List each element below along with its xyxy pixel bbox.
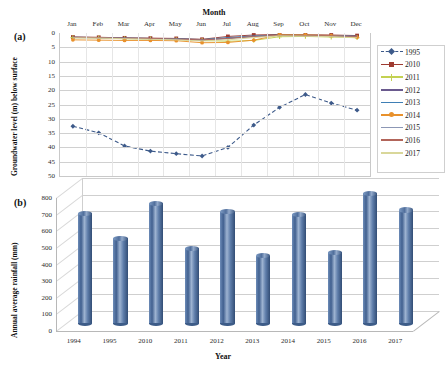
chart-b-bar[interactable] bbox=[185, 248, 199, 323]
chart-a-y-tick: 45 bbox=[35, 158, 55, 166]
chart-a-legend-item-2011[interactable]: 2011 bbox=[378, 71, 444, 84]
chart-a-x-tick: Jun bbox=[189, 20, 213, 28]
chart-a-y-tick: 40 bbox=[35, 143, 55, 151]
chart-b-x-tick: 2012 bbox=[201, 337, 233, 345]
chart-a-marker-2014 bbox=[226, 41, 230, 45]
bar-body bbox=[399, 210, 413, 323]
chart-a-x-tick: Aug bbox=[241, 20, 265, 28]
chart-a-legend-item-2010[interactable]: 2010 bbox=[378, 59, 444, 72]
chart-a-y-tick: 35 bbox=[35, 129, 55, 137]
bar-body bbox=[292, 214, 306, 323]
chart-a-vertical-gridline bbox=[293, 33, 294, 176]
chart-b-x-tick: 2011 bbox=[165, 337, 197, 345]
chart-a-marker-2014 bbox=[97, 38, 101, 42]
chart-b-y-tick: 500 bbox=[30, 244, 52, 252]
chart-a-x-tick: Jan bbox=[60, 20, 84, 28]
panel-a-label: (a) bbox=[14, 31, 26, 42]
chart-a-x-tick: Mar bbox=[112, 20, 136, 28]
chart-b-bar[interactable] bbox=[149, 203, 163, 323]
chart-b-bar[interactable] bbox=[113, 238, 127, 323]
legend-label: 2010 bbox=[403, 60, 420, 69]
chart-b-bar[interactable] bbox=[399, 210, 413, 323]
bar-body bbox=[256, 256, 270, 323]
chart-b-y-tick: 400 bbox=[30, 261, 52, 269]
chart-b-y-axis-line bbox=[56, 198, 57, 331]
chart-a-y-tick: 25 bbox=[35, 101, 55, 109]
bar-body bbox=[220, 212, 234, 323]
chart-b-floor-right-edge bbox=[413, 311, 440, 332]
chart-a-vertical-gridline bbox=[138, 33, 139, 176]
chart-b-bar[interactable] bbox=[78, 213, 92, 323]
bar-body bbox=[149, 203, 163, 323]
chart-a-y-axis-title: Groundwater level (m) below surface bbox=[10, 57, 19, 176]
chart-a-marker-1995 bbox=[355, 108, 360, 113]
chart-a-legend-item-2015[interactable]: 2015 bbox=[378, 122, 444, 135]
bar-body bbox=[363, 193, 377, 323]
chart-a-x-tick: May bbox=[163, 20, 187, 28]
chart-a-legend-item-2017[interactable]: 2017 bbox=[378, 147, 444, 160]
bar-cap-top bbox=[113, 236, 127, 241]
chart-a-x-tick: Nov bbox=[318, 20, 342, 28]
chart-b-y-tick: 600 bbox=[30, 227, 52, 235]
chart-panel-a: (a) Month Groundwater level (m) below su… bbox=[0, 0, 446, 186]
chart-b-y-tick: 200 bbox=[30, 294, 52, 302]
chart-b-gridline bbox=[82, 195, 439, 196]
bar-cap-top bbox=[185, 246, 199, 251]
chart-b-y-axis-title: Annual average rainfall (mm) bbox=[10, 242, 19, 338]
chart-b-bar[interactable] bbox=[328, 252, 342, 323]
legend-swatch-icon bbox=[381, 85, 403, 95]
legend-swatch-icon bbox=[381, 60, 403, 70]
chart-a-x-tick: Feb bbox=[86, 20, 110, 28]
chart-a-plot-area bbox=[59, 33, 371, 177]
chart-a-y-tick: 0 bbox=[35, 29, 55, 37]
chart-b-floor-line bbox=[56, 331, 413, 332]
legend-marker-icon bbox=[388, 48, 395, 55]
chart-a-vertical-gridline bbox=[112, 33, 113, 176]
legend-swatch-icon bbox=[381, 72, 403, 82]
chart-a-vertical-gridline bbox=[344, 33, 345, 176]
chart-b-x-tick: 1995 bbox=[94, 337, 126, 345]
chart-b-bar[interactable] bbox=[256, 256, 270, 323]
legend-marker-icon bbox=[389, 62, 394, 67]
chart-b-x-tick: 2010 bbox=[129, 337, 161, 345]
chart-b-bar[interactable] bbox=[363, 193, 377, 323]
chart-b-x-tick: 2016 bbox=[343, 337, 375, 345]
chart-b-gridline bbox=[82, 228, 439, 229]
legend-label: 2012 bbox=[403, 86, 420, 95]
legend-label: 2015 bbox=[403, 123, 420, 132]
chart-a-marker-2014 bbox=[71, 38, 75, 42]
bar-cap-top bbox=[149, 201, 163, 206]
bar-cap-top bbox=[399, 207, 413, 212]
legend-swatch-icon bbox=[381, 47, 403, 57]
chart-a-legend-item-1995[interactable]: 1995 bbox=[378, 46, 444, 59]
chart-panel-b: (b) Annual average rainfall (mm) Year 01… bbox=[0, 186, 446, 368]
chart-a-y-tick: 15 bbox=[35, 72, 55, 80]
legend-label: 2016 bbox=[403, 136, 420, 145]
chart-b-bar[interactable] bbox=[292, 214, 306, 323]
chart-b-y-tick: 0 bbox=[30, 327, 52, 335]
bar-body bbox=[78, 213, 92, 323]
legend-label: 2017 bbox=[403, 149, 420, 158]
chart-a-vertical-gridline bbox=[189, 33, 190, 176]
legend-label: 2014 bbox=[403, 111, 420, 120]
chart-a-legend-item-2014[interactable]: 2014 bbox=[378, 109, 444, 122]
legend-label: 1995 bbox=[403, 48, 420, 57]
chart-b-y-tick: 100 bbox=[30, 310, 52, 318]
bar-cap-top bbox=[78, 211, 92, 216]
chart-b-bar[interactable] bbox=[220, 212, 234, 323]
bar-body bbox=[328, 252, 342, 323]
chart-a-marker-1995 bbox=[303, 92, 308, 97]
chart-a-title: Month bbox=[59, 8, 369, 17]
legend-swatch-icon bbox=[381, 148, 403, 158]
chart-a-x-tick: Apr bbox=[137, 20, 161, 28]
chart-a-legend-item-2012[interactable]: 2012 bbox=[378, 84, 444, 97]
chart-b-x-tick: 2014 bbox=[272, 337, 304, 345]
chart-a-legend-item-2013[interactable]: 2013 bbox=[378, 96, 444, 109]
chart-b-x-tick: 1994 bbox=[58, 337, 90, 345]
legend-label: 2011 bbox=[403, 73, 420, 82]
chart-a-legend-item-2016[interactable]: 2016 bbox=[378, 134, 444, 147]
chart-b-y-tick: 300 bbox=[30, 277, 52, 285]
chart-a-marker-1995 bbox=[200, 154, 205, 159]
chart-b-x-tick: 2015 bbox=[308, 337, 340, 345]
chart-a-marker-1995 bbox=[174, 151, 179, 156]
